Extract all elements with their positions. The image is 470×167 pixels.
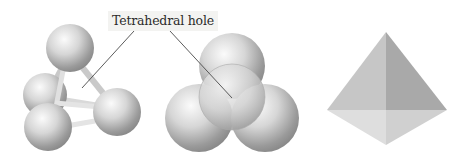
- tetrahedral-hole-diagram: [0, 0, 470, 167]
- face-bottom-left: [327, 110, 386, 145]
- tetrahedron: [327, 32, 447, 145]
- sphere-front: [199, 64, 265, 130]
- face-right: [386, 32, 447, 110]
- sphere-front: [24, 103, 72, 151]
- space-filling-model: [165, 33, 299, 152]
- face-left: [327, 32, 386, 110]
- sphere-top: [46, 24, 94, 72]
- tetrahedral-hole-label: Tetrahedral hole: [108, 11, 218, 31]
- sphere-right: [93, 88, 141, 136]
- face-bottom-right: [386, 110, 447, 145]
